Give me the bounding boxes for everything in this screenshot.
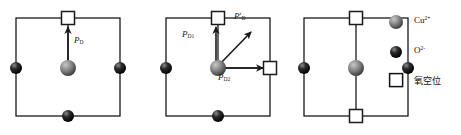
legend-black-sphere-icon [390,46,402,58]
legend-item-o-ion: O2- [414,46,425,55]
o-sphere-bottom [62,110,74,122]
vacancy-square-top [62,12,75,25]
o-sphere-left [160,62,172,74]
o-sphere-left [298,62,310,74]
cu-sphere-center [348,60,364,76]
vacancy-square-bottom [350,110,363,123]
vacancy-square-top [350,12,363,25]
o-sphere-right [114,62,126,74]
legend-label-cu-ion: Cu2+ [414,16,430,25]
legend-item-cu-ion: Cu2+ [414,16,430,25]
label-pd1: PD1 [182,30,194,40]
legend-vacancy-square-icon [390,74,403,87]
panel-a-graphic [0,0,150,135]
vacancy-square-right [264,62,277,75]
cu-sphere-center [60,60,76,76]
vacancy-square-top [212,12,225,25]
panel-b-graphic [150,0,300,135]
legend-gray-sphere-icon [389,15,403,29]
legend-item-oxygen-vacancy: 氧空位 [414,74,441,87]
panel-b: PD1 P′D PD2 [150,0,300,135]
o-sphere-left [10,62,22,74]
label-pd: PD [74,36,83,46]
label-pd2: PD2 [218,73,230,83]
legend: Cu2+ O2- 氧空位 [388,10,461,100]
figure-canvas: PD [0,0,461,135]
legend-label-o-ion: O2- [414,46,425,55]
panel-a: PD [0,0,150,135]
o-sphere-bottom [212,110,224,122]
arrow-pd-prime [218,32,251,66]
legend-label-oxygen-vacancy: 氧空位 [414,74,441,87]
label-pd-prime: P′D [234,12,245,22]
